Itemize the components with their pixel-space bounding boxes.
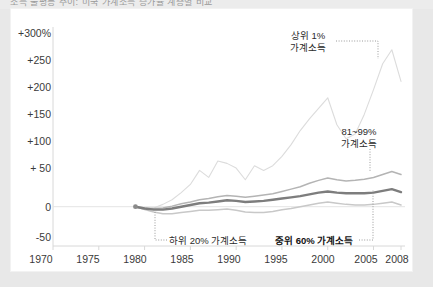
x-tick-label: 1990 [207, 253, 251, 265]
x-tick-label: 2008 [375, 253, 419, 265]
chart-card: +300% +250 +200 +150 +100 + 50 0 -50 197… [11, 9, 412, 271]
cut-off-header-text: 소득 불평등 추이: 미국 가계소득 증가율 계층별 비교 [10, 0, 213, 8]
line-chart: +300% +250 +200 +150 +100 + 50 0 -50 197… [11, 9, 412, 271]
annotation-top-1-percent-line2: 가계소득 [290, 42, 326, 53]
y-tick-label: 0 [9, 201, 51, 213]
y-tick-label: +200 [9, 81, 51, 93]
x-tick-label: 1980 [113, 253, 157, 265]
annotation-81-99-percent: 81~99% 가계소득 [341, 126, 377, 149]
y-tick-label: + 50 [9, 162, 51, 174]
annotation-top-1-percent: 상위 1% 가계소득 [290, 30, 326, 53]
cut-off-header-strip: 소득 불평등 추이: 미국 가계소득 증가율 계층별 비교 [0, 0, 433, 9]
y-tick-label: +300% [9, 27, 51, 39]
y-tick-label: +250 [9, 54, 51, 66]
annotation-81-99-percent-line1: 81~99% [341, 126, 376, 137]
x-tick-label: 1995 [254, 253, 298, 265]
x-tick-label: 2000 [301, 253, 345, 265]
y-tick-label: +150 [9, 108, 51, 120]
x-tick-label: 1985 [160, 253, 204, 265]
annotation-top-1-percent-line1: 상위 1% [291, 30, 325, 41]
annotation-bottom-20-percent: 하위 20% 가계소득 [169, 235, 247, 247]
x-tick-label: 1970 [19, 253, 63, 265]
annotation-middle-60-percent: 중위 60% 가계소득 [275, 235, 353, 247]
x-tick-label: 1975 [66, 253, 110, 265]
y-tick-label: +100 [9, 135, 51, 147]
annotation-81-99-percent-line2: 가계소득 [341, 138, 377, 149]
y-tick-label: -50 [9, 231, 51, 243]
